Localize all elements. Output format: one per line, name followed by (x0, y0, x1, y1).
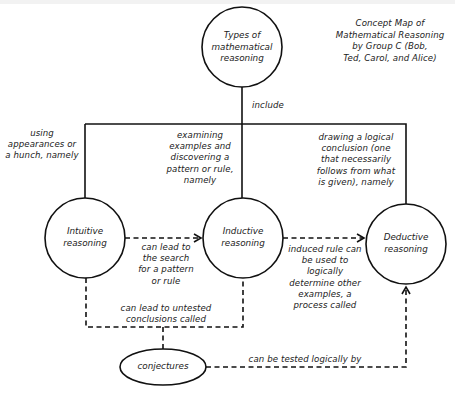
intuitive-node-label: Intuitive reasoning (45, 226, 125, 249)
inductive-description-label: examining examples and discovering a pat… (160, 130, 240, 186)
conjectures-to-deductive-label: can be tested logically by (240, 354, 370, 365)
root-node-label: Types of mathematical reasoning (202, 30, 282, 65)
conjectures-node-label: conjectures (120, 361, 206, 373)
deductive-node-label: Deductive reasoning (366, 232, 446, 255)
map-title: Concept Map of Mathematical Reasoning by… (325, 18, 455, 64)
inductive-node-label: Inductive reasoning (203, 226, 283, 249)
intuitive-to-inductive-label: can lead to the search for a pattern or … (130, 242, 202, 287)
deductive-description-label: drawing a logical conclusion (one that n… (310, 132, 402, 188)
inductive-to-deductive-label: induced rule can be used to logically de… (286, 244, 364, 311)
include-label: include (246, 100, 290, 111)
intuitive-description-label: using appearances or a hunch, namely (2, 128, 82, 162)
to-conjectures-label: can lead to untested conclusions called (106, 303, 226, 325)
